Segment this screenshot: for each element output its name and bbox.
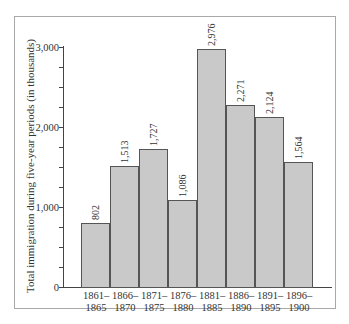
bar <box>139 149 168 288</box>
bar-value-label: 1,564 <box>293 136 304 159</box>
x-tick-label: 1886–1890 <box>226 290 256 314</box>
y-tick <box>59 87 64 88</box>
y-tick <box>59 107 64 108</box>
y-tick <box>59 147 64 148</box>
x-tick-label: 1861–1865 <box>81 290 111 314</box>
bar <box>110 166 139 288</box>
bar <box>226 105 255 288</box>
bar-value-label: 802 <box>90 205 101 220</box>
y-tick <box>59 187 64 188</box>
bar-value-label: 1,513 <box>119 140 130 163</box>
bar-value-label: 2,271 <box>235 80 246 103</box>
y-tick <box>59 287 64 288</box>
x-tick-label: 1891–1895 <box>255 290 285 314</box>
bar-value-label: 2,976 <box>206 23 217 46</box>
x-tick-label: 1871–1875 <box>139 290 169 314</box>
y-tick-label: 2,000 <box>35 122 59 133</box>
y-tick-label: 3,000 <box>35 42 59 53</box>
y-tick <box>59 227 64 228</box>
y-tick <box>59 67 64 68</box>
y-tick-label: 1,000 <box>35 202 59 213</box>
y-axis-label: Total immigration during five-year perio… <box>24 39 36 293</box>
x-tick-label: 1896–1900 <box>284 290 314 314</box>
y-tick <box>59 207 64 208</box>
y-tick <box>59 247 64 248</box>
y-tick <box>59 267 64 268</box>
bar-value-label: 1,086 <box>177 175 188 198</box>
bar <box>255 117 284 288</box>
y-tick <box>59 47 64 48</box>
x-tick-label: 1881–1885 <box>197 290 227 314</box>
y-tick <box>59 167 64 168</box>
x-tick-label: 1876–1880 <box>168 290 198 314</box>
bar <box>284 162 313 288</box>
bar-value-label: 1,727 <box>148 123 159 146</box>
y-tick-label: 0 <box>54 282 59 293</box>
bar <box>81 223 110 288</box>
bar <box>168 200 197 288</box>
x-tick-label: 1866–1870 <box>110 290 140 314</box>
y-tick <box>59 127 64 128</box>
bar <box>197 49 226 288</box>
bar-value-label: 2,124 <box>264 92 275 115</box>
